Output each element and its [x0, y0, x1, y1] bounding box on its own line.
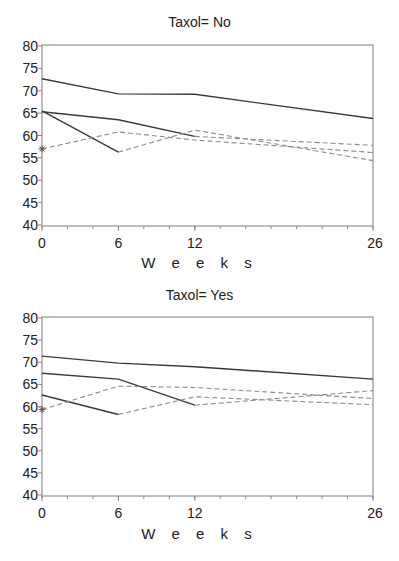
x-tick-label: 0 [38, 505, 46, 521]
y-tick-label: 70 [22, 354, 38, 370]
y-tick-label: 80 [22, 310, 38, 326]
star-marker-icon [39, 406, 46, 413]
y-tick-label: 65 [22, 376, 38, 392]
x-tick-label: 12 [187, 505, 203, 521]
panel-taxol-yes: Taxol= Yes 404550556065707580061226 W e … [0, 0, 399, 561]
x-tick-label: 6 [114, 505, 122, 521]
y-tick-label: 40 [22, 487, 38, 503]
series-line-solid-3 [42, 395, 118, 415]
y-tick-label: 45 [22, 465, 38, 481]
series-line-solid-1 [42, 356, 373, 379]
x-tick-label: 26 [367, 505, 383, 521]
y-tick-label: 55 [22, 421, 38, 437]
plot-frame [42, 317, 373, 496]
line-chart-taxol-yes: 404550556065707580061226 [0, 0, 399, 561]
y-tick-label: 50 [22, 443, 38, 459]
y-tick-label: 60 [22, 399, 38, 415]
y-tick-label: 75 [22, 332, 38, 348]
x-axis-title: W e e k s [0, 525, 399, 542]
series-line-dashed-2 [118, 397, 373, 415]
